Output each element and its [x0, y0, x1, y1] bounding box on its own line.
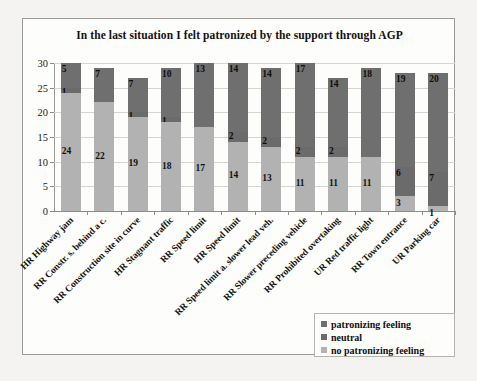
bar-segment-no-patronizing: 18: [161, 122, 181, 211]
stacked-bar: 7119: [128, 78, 148, 211]
bar-value-label: 22: [95, 151, 105, 161]
bar-segment-patronizing: 5: [61, 63, 81, 88]
screenshot-root: In the last situation I felt patronized …: [0, 0, 477, 381]
bar-value-label: 2: [329, 146, 334, 156]
gridline: [54, 63, 455, 64]
y-tick-mark: [50, 211, 54, 212]
stacked-bar: 17211: [295, 63, 315, 211]
bar-segment-patronizing: 7: [128, 78, 148, 113]
legend-item-label: no patronizing feeling: [331, 345, 424, 356]
bar-value-label: 5: [62, 64, 67, 74]
bar-value-label: 10: [162, 69, 172, 79]
bar-value-label: 7: [129, 79, 134, 89]
x-tick-mark: [455, 211, 456, 215]
bar-value-label: 17: [296, 64, 306, 74]
y-tick-mark: [50, 88, 54, 89]
x-tick-mark: [255, 211, 256, 215]
y-tick-mark: [50, 112, 54, 113]
x-axis-label: HR Stagnant traffic: [112, 215, 175, 278]
stacked-bar: 14214: [228, 63, 248, 211]
legend-swatch-icon: [321, 321, 327, 327]
bar-segment-no-patronizing: 3: [395, 196, 415, 211]
legend-item-patronizing-feeling: patronizing feeling: [321, 318, 448, 330]
bar-value-label: 3: [396, 198, 401, 208]
bar-segment-patronizing: 14: [328, 78, 348, 147]
y-tick-label: 25: [23, 82, 48, 93]
stacked-bar: 5124: [61, 63, 81, 211]
bar-value-label: 11: [296, 178, 305, 188]
x-tick-mark: [288, 211, 289, 215]
bar-segment-neutral: 2: [228, 132, 248, 142]
bar-segment-neutral: 6: [395, 167, 415, 197]
legend-swatch-icon: [321, 347, 327, 353]
y-tick-mark: [50, 186, 54, 187]
legend-item-neutral: neutral: [321, 331, 448, 343]
x-axis-label: UR Red traffic light: [313, 215, 376, 278]
bar-segment-neutral: 2: [261, 137, 281, 147]
bar-segment-no-patronizing: 17: [194, 127, 214, 211]
bar-value-label: 19: [129, 158, 139, 168]
bar-segment-no-patronizing: 24: [61, 93, 81, 211]
bar-segment-no-patronizing: 1: [428, 206, 448, 211]
y-tick-mark: [50, 162, 54, 163]
legend-swatch-icon: [321, 334, 327, 340]
legend-item-label: neutral: [331, 332, 362, 343]
bar-value-label: 14: [262, 69, 272, 79]
x-tick-mark: [221, 211, 222, 215]
y-tick-mark: [50, 63, 54, 64]
bar-segment-patronizing: 14: [261, 68, 281, 137]
bar-value-label: 7: [95, 69, 100, 79]
bar-value-label: 6: [396, 168, 401, 178]
x-tick-mark: [87, 211, 88, 215]
bar-value-label: 17: [195, 163, 205, 173]
y-tick-label: 20: [23, 107, 48, 118]
bar-segment-patronizing: 13: [194, 63, 214, 127]
x-tick-mark: [422, 211, 423, 215]
bar-value-label: 2: [296, 146, 301, 156]
bar-segment-patronizing: 14: [228, 63, 248, 132]
bar-value-label: 14: [229, 64, 239, 74]
x-tick-mark: [355, 211, 356, 215]
bar-value-label: 13: [195, 64, 205, 74]
bar-value-label: 2: [229, 131, 234, 141]
bar-segment-no-patronizing: 11: [361, 157, 381, 211]
bar-value-label: 18: [362, 69, 372, 79]
bar-segment-patronizing: 18: [361, 68, 381, 157]
y-tick-label: 10: [23, 156, 48, 167]
x-tick-mark: [321, 211, 322, 215]
bar-value-label: 13: [262, 173, 272, 183]
bar-segment-patronizing: 20: [428, 73, 448, 172]
bar-segment-neutral: 7: [428, 172, 448, 207]
bar-value-label: 20: [429, 74, 439, 84]
chart-title: In the last situation I felt patronized …: [23, 29, 456, 41]
chart-legend: patronizing feeling neutral no patronizi…: [314, 313, 455, 357]
bar-segment-patronizing: 7: [94, 68, 114, 103]
bar-segment-no-patronizing: 11: [328, 157, 348, 211]
stacked-bar: 7022: [94, 68, 114, 211]
bar-segment-no-patronizing: 13: [261, 147, 281, 211]
x-tick-mark: [388, 211, 389, 215]
bar-value-label: 18: [162, 161, 172, 171]
y-tick-label: 5: [23, 181, 48, 192]
bar-value-label: 11: [362, 178, 371, 188]
y-tick-label: 0: [23, 206, 48, 217]
bar-value-label: 11: [329, 178, 338, 188]
x-tick-mark: [188, 211, 189, 215]
legend-item-label: patronizing feeling: [331, 319, 411, 330]
stacked-bar: 14211: [328, 78, 348, 211]
bar-segment-no-patronizing: 19: [128, 117, 148, 211]
stacked-bar: 1963: [395, 73, 415, 211]
bar-segment-neutral: 2: [328, 147, 348, 157]
y-tick-mark: [50, 137, 54, 138]
bar-segment-neutral: 2: [295, 147, 315, 157]
bar-value-label: 7: [429, 173, 434, 183]
bar-segment-no-patronizing: 22: [94, 102, 114, 211]
stacked-bar: 13017: [194, 63, 214, 211]
stacked-bar: 10118: [161, 68, 181, 211]
bar-segment-patronizing: 17: [295, 63, 315, 147]
bar-value-label: 2: [262, 136, 267, 146]
x-tick-mark: [121, 211, 122, 215]
legend-item-no-patronizing-feeling: no patronizing feeling: [321, 344, 448, 356]
stacked-bar: 2071: [428, 73, 448, 211]
stacked-bar: 14213: [261, 68, 281, 211]
